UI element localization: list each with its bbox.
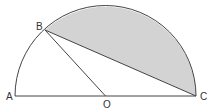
shaded-segment: [45, 7, 196, 96]
label-a: A: [6, 91, 13, 102]
label-c: C: [200, 91, 207, 102]
label-o: O: [103, 99, 111, 110]
geometry-diagram: A B C O: [0, 0, 218, 111]
label-b: B: [36, 21, 43, 32]
